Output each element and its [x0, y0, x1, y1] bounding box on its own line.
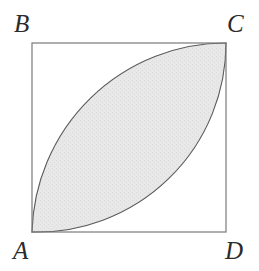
vertex-label-d: D [225, 238, 243, 263]
geometry-figure: B C A D [0, 0, 259, 271]
vertex-label-a: A [13, 238, 28, 263]
shaded-lens-region [32, 43, 226, 232]
vertex-label-b: B [14, 11, 29, 36]
geometry-canvas [0, 0, 259, 271]
vertex-label-c: C [227, 11, 244, 36]
